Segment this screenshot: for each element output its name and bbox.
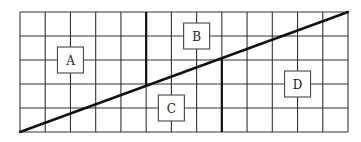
label-text: C [167, 102, 176, 116]
label-text: A [65, 54, 75, 68]
label-text: D [293, 78, 303, 92]
region-label-d: D [285, 71, 311, 97]
grid-diagram: ABCD [0, 0, 361, 142]
region-label-c: C [158, 95, 184, 121]
region-label-b: B [184, 23, 210, 49]
region-label-a: A [57, 47, 83, 73]
label-text: B [192, 30, 201, 44]
